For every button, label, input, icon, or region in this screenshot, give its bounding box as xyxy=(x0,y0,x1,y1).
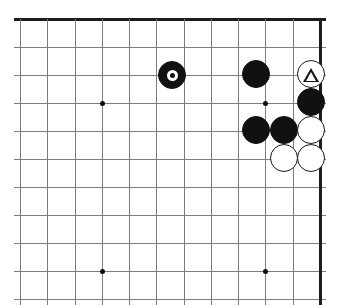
stone-black-lower-middle xyxy=(270,116,298,144)
grid-line-horizontal-6 xyxy=(14,187,326,188)
grid-line-horizontal-7 xyxy=(14,215,326,216)
stone-white-bottom-left xyxy=(270,144,298,172)
grid-line-vertical-8 xyxy=(238,19,239,305)
grid-line-vertical-0 xyxy=(20,19,21,305)
grid-line-vertical-7 xyxy=(211,19,212,305)
grid-line-horizontal-10 xyxy=(14,299,326,300)
go-board-diagram xyxy=(0,0,358,305)
star-point-right-lower xyxy=(263,269,268,274)
grid-line-vertical-3 xyxy=(102,19,103,305)
stone-white-marked-triangle xyxy=(297,60,325,88)
star-point-right-upper xyxy=(263,101,268,106)
grid-line-vertical-5 xyxy=(156,19,157,305)
grid-line-horizontal-9 xyxy=(14,271,326,272)
grid-line-vertical-2 xyxy=(75,19,76,305)
grid-line-horizontal-1 xyxy=(14,47,326,48)
grid-line-horizontal-8 xyxy=(14,243,326,244)
stone-white-middle-right xyxy=(297,116,325,144)
star-point-left-upper xyxy=(100,101,105,106)
grid-line-vertical-1 xyxy=(47,19,48,305)
stone-black-right xyxy=(297,88,325,116)
star-point-left-lower xyxy=(100,269,105,274)
grid-line-vertical-6 xyxy=(184,19,185,305)
board-top-edge xyxy=(14,18,326,21)
grid-line-horizontal-3 xyxy=(14,103,326,104)
circle-mark-icon xyxy=(167,70,178,81)
stone-black-lower-left xyxy=(242,116,270,144)
stone-black-upper xyxy=(242,60,270,88)
stone-black-marked-circle xyxy=(158,61,186,89)
grid-line-vertical-4 xyxy=(129,19,130,305)
grid-line-vertical-9 xyxy=(265,19,266,305)
stone-white-bottom-right xyxy=(297,144,325,172)
triangle-mark-icon xyxy=(303,68,319,82)
